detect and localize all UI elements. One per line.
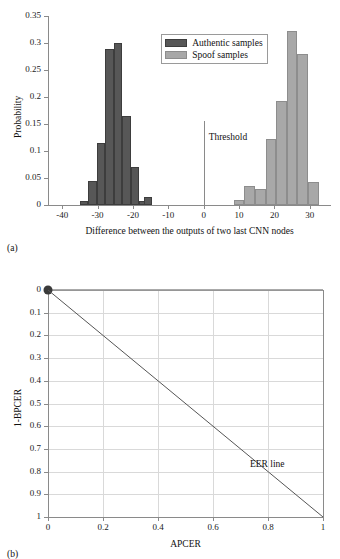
threshold-line bbox=[204, 121, 205, 205]
panel-a-y-tick-label: 0.2 bbox=[30, 92, 41, 101]
panel-b-x-tick-label: 0 bbox=[37, 523, 59, 532]
histogram-bar bbox=[276, 101, 287, 205]
panel-a-x-tick-label: 20 bbox=[263, 211, 285, 220]
panel-a-x-tick bbox=[98, 205, 99, 209]
histogram-bar bbox=[234, 200, 245, 205]
panel-a-y-tick-label: 0.25 bbox=[25, 65, 41, 74]
panel-a-y-tick-label: 0.1 bbox=[30, 146, 41, 155]
panel-a-x-tick bbox=[168, 205, 169, 209]
panel-a-y-axis-title: Probability bbox=[13, 95, 23, 137]
panel-a-x-tick bbox=[204, 205, 205, 209]
histogram-bar bbox=[122, 116, 130, 205]
histogram-bar bbox=[308, 182, 319, 205]
panel-a-y-tick-label: 0.35 bbox=[25, 11, 41, 20]
legend-item-authentic: Authentic samples bbox=[165, 37, 262, 49]
histogram-bar bbox=[88, 181, 96, 205]
panel-a-y-tick bbox=[44, 205, 48, 206]
panel-b-y-tick-label: 0.4 bbox=[30, 376, 41, 385]
panel-a-x-tick bbox=[62, 205, 63, 209]
panel-b-x-axis-title: APCER bbox=[48, 539, 323, 549]
panel-b-x-tick-label: 0.4 bbox=[147, 523, 169, 532]
panel-a-x-tick-label: -30 bbox=[87, 211, 109, 220]
panel-b-x-tick-label: 0.6 bbox=[202, 523, 224, 532]
panel-b-caption: (b) bbox=[7, 549, 18, 559]
panel-a-y-tick bbox=[44, 178, 48, 179]
panel-a-x-axis-line bbox=[48, 205, 331, 206]
legend-item-spoof: Spoof samples bbox=[165, 49, 262, 61]
panel-a-y-tick-label: 0.15 bbox=[25, 119, 41, 128]
threshold-annotation: Threshold bbox=[209, 132, 248, 142]
histogram-bar bbox=[287, 31, 298, 205]
panel-b-y-tick-label: 0.1 bbox=[30, 308, 41, 317]
panel-b-x-tick-label: 0.2 bbox=[92, 523, 114, 532]
panel-a-y-tick bbox=[44, 43, 48, 44]
panel-a-y-tick bbox=[44, 124, 48, 125]
histogram-bar bbox=[244, 186, 255, 205]
panel-b-y-tick-label: 0.5 bbox=[30, 399, 41, 408]
panel-a-x-tick-label: -40 bbox=[51, 211, 73, 220]
panel-a-y-tick bbox=[44, 70, 48, 71]
panel-a-x-tick-label: 30 bbox=[299, 211, 321, 220]
panel-b-y-tick-label: 1 bbox=[37, 512, 42, 521]
histogram-bar bbox=[266, 139, 277, 205]
histogram-bar bbox=[255, 189, 266, 205]
panel-a-y-tick bbox=[44, 97, 48, 98]
panel-a-y-tick-label: 0 bbox=[37, 200, 42, 209]
panel-a-legend: Authentic samples Spoof samples bbox=[161, 34, 267, 64]
panel-a-x-tick bbox=[310, 205, 311, 209]
panel-b-roc: 1-BPCER 10.90.80.70.60.50.40.30.20.1000.… bbox=[0, 268, 340, 558]
panel-b-y-tick-label: 0.2 bbox=[30, 330, 41, 339]
panel-a-x-tick-label: -20 bbox=[122, 211, 144, 220]
panel-a-x-tick bbox=[274, 205, 275, 209]
histogram-bar bbox=[114, 43, 122, 205]
histogram-bar bbox=[80, 201, 88, 205]
panel-b-y-tick-label: 0.7 bbox=[30, 444, 41, 453]
histogram-bar bbox=[131, 167, 139, 205]
histogram-bar bbox=[297, 54, 308, 205]
panel-b-y-tick-label: 0.6 bbox=[30, 421, 41, 430]
eer-diagonal-line bbox=[48, 290, 323, 517]
panel-a-x-tick bbox=[133, 205, 134, 209]
histogram-bar bbox=[144, 197, 152, 205]
panel-a-y-tick-label: 0.3 bbox=[30, 38, 41, 47]
panel-a-y-tick bbox=[44, 16, 48, 17]
panel-b-y-tick-label: 0.8 bbox=[30, 467, 41, 476]
legend-swatch-spoof-icon bbox=[165, 51, 187, 60]
legend-swatch-authentic-icon bbox=[165, 39, 187, 48]
panel-b-x-tick-label: 1 bbox=[312, 523, 334, 532]
panel-b-y-axis-title: 1-BPCER bbox=[13, 388, 23, 426]
panel-a-histogram: Probability 00.050.10.150.20.250.30.35-4… bbox=[0, 0, 340, 268]
histogram-bar bbox=[105, 49, 113, 205]
eer-line-annotation: EER line bbox=[250, 459, 285, 469]
panel-b-y-tick-label: 0 bbox=[37, 285, 42, 294]
panel-b-plot-area: 10.90.80.70.60.50.40.30.20.1000.20.40.60… bbox=[48, 290, 323, 517]
panel-a-y-tick bbox=[44, 151, 48, 152]
panel-b-y-tick-label: 0.9 bbox=[30, 489, 41, 498]
panel-a-x-tick-label: 0 bbox=[193, 211, 215, 220]
panel-a-x-tick-label: 10 bbox=[228, 211, 250, 220]
panel-a-caption: (a) bbox=[7, 243, 18, 253]
panel-a-y-tick-label: 0.05 bbox=[25, 173, 41, 182]
panel-b-curves bbox=[48, 290, 325, 519]
panel-a-y-axis-line bbox=[48, 16, 49, 205]
panel-b-x-tick-label: 0.8 bbox=[257, 523, 279, 532]
panel-a-x-tick-label: -10 bbox=[157, 211, 179, 220]
histogram-bar bbox=[97, 143, 105, 205]
panel-a-x-tick bbox=[239, 205, 240, 209]
panel-a-x-axis-title: Difference between the outputs of two la… bbox=[48, 226, 331, 236]
legend-label-authentic: Authentic samples bbox=[192, 38, 262, 49]
panel-b-y-tick-label: 0.3 bbox=[30, 353, 41, 362]
legend-label-spoof: Spoof samples bbox=[192, 50, 248, 61]
